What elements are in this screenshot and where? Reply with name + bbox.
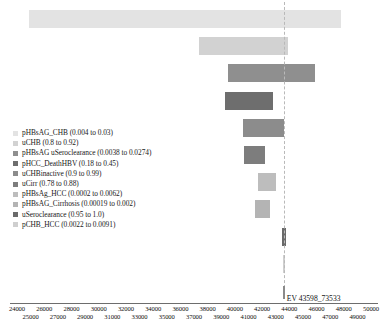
- tornado-bar-row: [0, 10, 384, 28]
- legend-swatch-icon: [13, 151, 18, 156]
- expected-value-tick: [283, 286, 285, 299]
- legend-item-label: uSeroclearance (0.95 to 1.0): [22, 210, 104, 220]
- axis-tick-label: 31000: [104, 313, 120, 321]
- tornado-bar-row: [0, 64, 384, 82]
- tornado-bar: [29, 10, 341, 28]
- axis-tick-label: 33000: [132, 313, 148, 321]
- legend-item: pHBsAG_Cirrhosis (0.00019 to 0.002): [13, 199, 151, 209]
- legend-item: pHBsAG uSeroclearance (0.0038 to 0.0274): [13, 148, 151, 158]
- axis-tick-label: 45000: [295, 313, 311, 321]
- axis-tick-label: 27000: [50, 313, 66, 321]
- legend-item: pHCC_DeathHBV (0.18 to 0.45): [13, 159, 151, 169]
- legend-item: uSeroclearance (0.95 to 1.0): [13, 210, 151, 220]
- legend-item: pHBsAG_CHB (0.004 to 0.03): [13, 128, 151, 138]
- legend-item-label: uCirr (0.78 to 0.88): [22, 179, 79, 189]
- legend-swatch-icon: [13, 182, 18, 187]
- expected-value-centerline: [284, 2, 285, 298]
- tornado-bar: [199, 37, 288, 55]
- axis-tick-label: 32000: [118, 305, 134, 313]
- legend-swatch-icon: [13, 171, 18, 176]
- axis-tick-label: 24000: [9, 305, 25, 313]
- axis-tick-label: 41000: [240, 313, 256, 321]
- axis-tick-label: 30000: [91, 305, 107, 313]
- legend-item-label: pCHB_HCC (0.0022 to 0.0091): [22, 220, 115, 230]
- legend-item: pHBsAg_HCC (0.0002 to 0.0062): [13, 189, 151, 199]
- legend-item: uCirr (0.78 to 0.88): [13, 179, 151, 189]
- tornado-bar: [243, 119, 284, 137]
- axis-tick-label: 42000: [254, 305, 270, 313]
- axis-tick-label: 39000: [213, 313, 229, 321]
- axis-tick-label: 29000: [77, 313, 93, 321]
- x-axis: 2400026000280003000032000340003600038000…: [0, 303, 384, 330]
- tornado-bar-row: [0, 37, 384, 55]
- tornado-diagram: pHBsAG_CHB (0.004 to 0.03)uCHB (0.8 to 0…: [0, 0, 384, 330]
- legend-item-label: pHBsAG_Cirrhosis (0.00019 to 0.002): [22, 199, 135, 209]
- axis-tick-label: 36000: [172, 305, 188, 313]
- legend-item-label: pHBsAG uSeroclearance (0.0038 to 0.0274): [22, 148, 151, 158]
- axis-tick-label: 48000: [336, 305, 352, 313]
- axis-tick-label: 34000: [145, 305, 161, 313]
- legend-item-label: uCHBinactive (0.9 to 0.99): [22, 169, 101, 179]
- axis-tick-label: 28000: [63, 305, 79, 313]
- tornado-bar: [225, 92, 273, 110]
- tornado-bar: [258, 173, 276, 191]
- legend-item: pCHB_HCC (0.0022 to 0.0091): [13, 220, 151, 230]
- legend-item-label: uCHB (0.8 to 0.92): [22, 138, 78, 148]
- axis-tick-label: 44000: [281, 305, 297, 313]
- legend-item-label: pHCC_DeathHBV (0.18 to 0.45): [22, 159, 118, 169]
- tornado-bar: [228, 64, 315, 82]
- legend-swatch-icon: [13, 202, 18, 207]
- axis-tick-label: 40000: [227, 305, 243, 313]
- tornado-bar-row: [0, 92, 384, 110]
- axis-line: [10, 303, 378, 304]
- axis-tick-label: 43000: [268, 313, 284, 321]
- tornado-bar-row: [0, 255, 384, 273]
- axis-tick-label: 47000: [322, 313, 338, 321]
- legend-item-label: pHBsAg_HCC (0.0002 to 0.0062): [22, 189, 122, 199]
- legend-swatch-icon: [13, 131, 18, 136]
- legend-item: uCHB (0.8 to 0.92): [13, 138, 151, 148]
- tornado-bar-row: [0, 228, 384, 246]
- legend-item: uCHBinactive (0.9 to 0.99): [13, 169, 151, 179]
- expected-value-label: EV 43598_73533: [287, 294, 341, 303]
- axis-tick-label: 50000: [363, 305, 379, 313]
- axis-tick-label: 37000: [186, 313, 202, 321]
- legend-swatch-icon: [13, 212, 18, 217]
- axis-tick-label: 49000: [349, 313, 365, 321]
- legend-swatch-icon: [13, 161, 18, 166]
- legend-swatch-icon: [13, 141, 18, 146]
- legend-item-label: pHBsAG_CHB (0.004 to 0.03): [22, 128, 113, 138]
- legend-swatch-icon: [13, 192, 18, 197]
- axis-tick-label: 46000: [309, 305, 325, 313]
- axis-tick-label: 25000: [23, 313, 39, 321]
- tornado-bar: [255, 200, 270, 218]
- axis-tick-label: 35000: [159, 313, 175, 321]
- legend-swatch-icon: [13, 222, 18, 227]
- axis-tick-label: 38000: [200, 305, 216, 313]
- tornado-bar: [244, 146, 264, 164]
- legend: pHBsAG_CHB (0.004 to 0.03)uCHB (0.8 to 0…: [13, 128, 151, 230]
- axis-tick-label: 26000: [36, 305, 52, 313]
